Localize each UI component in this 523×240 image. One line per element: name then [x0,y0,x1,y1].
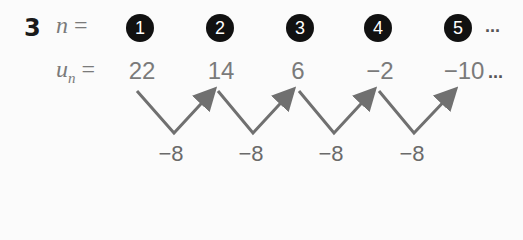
arrow-1 [137,91,211,133]
arrow-2 [218,91,290,133]
arrow-3 [299,91,371,133]
difference-4: −8 [387,141,437,167]
difference-1: −8 [146,141,196,167]
difference-2: −8 [226,141,276,167]
difference-3: −8 [306,141,356,167]
arrow-4 [379,91,452,133]
